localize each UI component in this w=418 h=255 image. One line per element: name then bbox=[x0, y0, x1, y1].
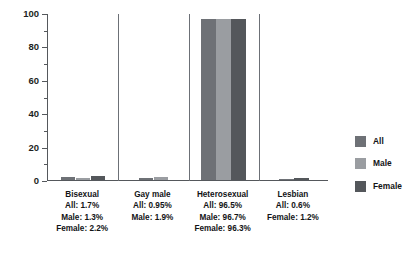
category-stat: All: 0.6% bbox=[258, 200, 328, 211]
bar bbox=[139, 178, 154, 180]
bar bbox=[294, 178, 309, 180]
category-name: Heterosexual bbox=[188, 189, 258, 200]
category-stat: Female: 2.2% bbox=[47, 223, 117, 234]
category-name: Lesbian bbox=[258, 189, 328, 200]
y-tick-major bbox=[42, 181, 47, 182]
category-stat: All: 0.95% bbox=[117, 200, 187, 211]
bar bbox=[216, 19, 231, 180]
bar bbox=[201, 19, 216, 180]
category-name: Gay male bbox=[117, 189, 187, 200]
legend-label: Male bbox=[373, 159, 392, 167]
bar bbox=[279, 179, 294, 180]
legend-label: Female bbox=[373, 182, 402, 190]
legend-swatch bbox=[355, 181, 366, 192]
y-axis-label: 100 bbox=[23, 9, 39, 19]
bar-chart: 020406080100 BisexualAll: 1.7%Male: 1.3%… bbox=[0, 0, 418, 255]
category-stat: All: 96.5% bbox=[188, 200, 258, 211]
y-axis-label: 20 bbox=[28, 143, 39, 153]
legend-swatch bbox=[355, 158, 366, 169]
y-axis-label: 60 bbox=[28, 76, 39, 86]
legend-item-male[interactable]: Male bbox=[355, 154, 402, 174]
category-stat: Male: 1.3% bbox=[47, 212, 117, 223]
panel-divider bbox=[118, 14, 119, 181]
bar bbox=[91, 176, 106, 180]
y-axis-label: 40 bbox=[28, 109, 39, 119]
category-stat: All: 1.7% bbox=[47, 200, 117, 211]
legend-swatch bbox=[355, 136, 366, 147]
category-name: Bisexual bbox=[47, 189, 117, 200]
legend-item-all[interactable]: All bbox=[355, 131, 402, 151]
panel-divider bbox=[259, 14, 260, 181]
legend-item-female[interactable]: Female bbox=[355, 176, 402, 196]
category-stat: Male: 1.9% bbox=[117, 212, 187, 223]
y-axis-label: 80 bbox=[28, 43, 39, 53]
bar bbox=[76, 178, 91, 180]
bar bbox=[231, 19, 246, 180]
y-axis-label: 0 bbox=[34, 176, 39, 186]
category-stat: Male: 96.7% bbox=[188, 212, 258, 223]
panel-divider bbox=[189, 14, 190, 181]
plot-area bbox=[47, 14, 328, 181]
bar bbox=[61, 177, 76, 180]
category-caption-heterosexual: HeterosexualAll: 96.5%Male: 96.7%Female:… bbox=[188, 189, 258, 235]
legend: AllMaleFemale bbox=[355, 131, 402, 199]
category-stat: Female: 96.3% bbox=[188, 223, 258, 234]
legend-label: All bbox=[373, 137, 384, 145]
category-caption-lesbian: LesbianAll: 0.6%Female: 1.2% bbox=[258, 189, 328, 223]
category-stat: Female: 1.2% bbox=[258, 212, 328, 223]
bar bbox=[154, 177, 169, 180]
category-caption-gay-male: Gay maleAll: 0.95%Male: 1.9% bbox=[117, 189, 187, 223]
category-caption-bisexual: BisexualAll: 1.7%Male: 1.3%Female: 2.2% bbox=[47, 189, 117, 235]
